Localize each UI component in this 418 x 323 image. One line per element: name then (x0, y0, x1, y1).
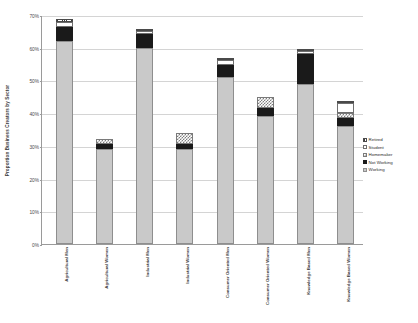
bar-segment-working (337, 126, 354, 244)
bar-consumer-oriented-men[interactable] (217, 58, 234, 244)
bar-group (42, 16, 363, 244)
y-axis-tick-label: 40% (29, 112, 39, 117)
bar-agricultural-men[interactable] (56, 19, 73, 244)
student-white-swatch (363, 145, 367, 149)
bar-segment-working (297, 84, 314, 244)
legend-label: Working (369, 167, 385, 172)
legend-label: Homemaker (369, 152, 393, 157)
legend: RetiredStudentHomemakerNot WorkingWorkin… (363, 137, 418, 172)
bar-consumer-oriented-women[interactable] (257, 97, 274, 244)
not-working-black-swatch (363, 160, 367, 164)
y-axis-tick-label: 20% (29, 177, 39, 182)
legend-item-not-working[interactable]: Not Working (363, 160, 418, 165)
bar-segment-working (136, 48, 153, 244)
y-axis-tick-label: 70% (29, 14, 39, 19)
legend-item-retired[interactable]: Retired (363, 137, 418, 142)
bar-segment-student (337, 103, 354, 113)
bar-segment-not-working (56, 27, 73, 41)
x-axis-label-agricultural-women: Agricultural Women (104, 247, 109, 307)
bar-segment-not-working (257, 108, 274, 117)
x-axis-label-consumer-oriented-men: Consumer Oriented Men (225, 247, 230, 307)
y-axis-tick-label: 30% (29, 144, 39, 149)
bar-industrial-women[interactable] (176, 133, 193, 244)
homemaker-checker-swatch (363, 153, 367, 157)
y-axis-tickmark (40, 245, 42, 246)
legend-item-homemaker[interactable]: Homemaker (363, 152, 418, 157)
retired-hatch-swatch (363, 138, 367, 142)
x-axis-label-knowledge-based-women: Knowledge Based Women (346, 247, 351, 307)
x-axis-labels: Agricultural MenAgricultural WomenIndust… (41, 247, 363, 307)
bar-chart: Proportion Business Creators by Sector 0… (0, 0, 418, 323)
y-axis-tick-label: 60% (29, 46, 39, 51)
bar-segment-not-working (136, 34, 153, 48)
plot-area: 0%10%20%30%40%50%60%70% (41, 16, 363, 245)
bar-segment-working (257, 116, 274, 244)
legend-item-working[interactable]: Working (363, 167, 418, 172)
legend-label: Student (369, 145, 384, 150)
bar-segment-not-working (297, 54, 314, 83)
bar-segment-working (56, 41, 73, 244)
x-axis-label-agricultural-men: Agricultural Men (64, 247, 69, 307)
x-axis-label-knowledge-based-men: Knowledge Based Men (306, 247, 311, 307)
y-axis-tick-label: 10% (29, 210, 39, 215)
bar-knowledge-based-men[interactable] (297, 49, 314, 244)
bar-segment-homemaker (176, 133, 193, 144)
bar-segment-working (217, 77, 234, 244)
working-gray-swatch (363, 168, 367, 172)
y-axis-tick-label: 50% (29, 79, 39, 84)
bar-industrial-men[interactable] (136, 29, 153, 244)
bar-segment-homemaker (257, 97, 274, 108)
bar-segment-working (176, 149, 193, 244)
bar-knowledge-based-women[interactable] (337, 101, 354, 244)
y-axis-title: Proportion Business Creators by Sector (2, 0, 14, 260)
y-axis-tick-label: 0% (32, 243, 39, 248)
x-axis-label-industrial-women: Industrial Women (185, 247, 190, 307)
y-axis-title-text: Proportion Business Creators by Sector (6, 84, 11, 175)
x-axis-label-industrial-men: Industrial Men (145, 247, 150, 307)
bar-agricultural-women[interactable] (96, 139, 113, 244)
bar-segment-not-working (217, 65, 234, 77)
bar-segment-not-working (337, 118, 354, 126)
legend-label: Retired (369, 137, 383, 142)
legend-label: Not Working (369, 160, 393, 165)
legend-item-student[interactable]: Student (363, 145, 418, 150)
x-axis-label-consumer-oriented-women: Consumer Oriented Women (265, 247, 270, 307)
bar-segment-working (96, 149, 113, 244)
